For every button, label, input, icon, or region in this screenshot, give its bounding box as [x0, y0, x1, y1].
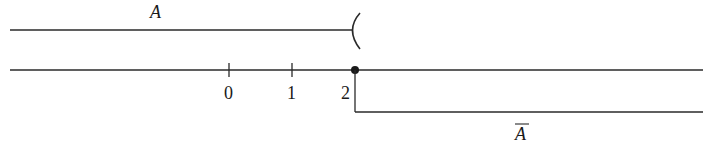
set-a-label: A	[149, 2, 162, 22]
number-line-diagram: A 012 A	[0, 0, 707, 155]
tick-label-0: 0	[224, 83, 233, 103]
tick-label-2: 2	[341, 83, 350, 103]
set-a-open-parenthesis	[353, 13, 361, 49]
complement-label: A	[514, 124, 527, 144]
tick-label-1: 1	[287, 83, 296, 103]
tick-group: 012	[224, 63, 350, 103]
